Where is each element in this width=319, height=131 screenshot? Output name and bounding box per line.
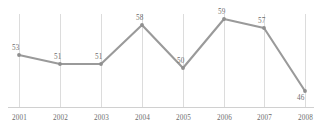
data-label-2003: 51 bbox=[95, 53, 102, 61]
chart-canvas bbox=[0, 0, 319, 131]
x-tick-2008: 2008 bbox=[291, 114, 319, 123]
data-label-2008: 46 bbox=[297, 94, 304, 102]
data-label-2006: 59 bbox=[218, 8, 225, 16]
data-label-2002: 51 bbox=[54, 53, 61, 61]
data-label-2007: 57 bbox=[258, 17, 265, 25]
data-line-series bbox=[19, 19, 305, 91]
x-tick-2003: 2003 bbox=[87, 114, 116, 123]
x-tick-2007: 2007 bbox=[250, 114, 279, 123]
data-label-2005: 50 bbox=[177, 57, 184, 65]
x-tick-2006: 2006 bbox=[210, 114, 239, 123]
line-chart: 53 51 51 58 50 59 57 46 2001 2002 2003 2… bbox=[0, 0, 319, 131]
data-label-2001: 53 bbox=[12, 44, 19, 52]
data-label-2004: 58 bbox=[136, 14, 143, 22]
plot-area: 53 51 51 58 50 59 57 46 2001 2002 2003 2… bbox=[0, 0, 319, 131]
x-tick-2005: 2005 bbox=[169, 114, 198, 123]
x-tick-2001: 2001 bbox=[5, 114, 34, 123]
x-tick-2004: 2004 bbox=[128, 114, 157, 123]
x-tick-2002: 2002 bbox=[46, 114, 75, 123]
